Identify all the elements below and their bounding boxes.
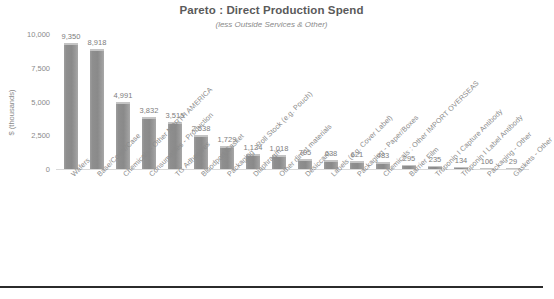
chart-title: Pareto : Direct Production Spend [0, 4, 543, 16]
y-tick-label: 7,500 [31, 63, 50, 72]
y-axis-ticks: 10,0007,5005,0002,5000 [12, 34, 50, 169]
y-tick-label: 0 [46, 165, 50, 174]
bottom-divider [0, 286, 543, 288]
y-tick-label: 10,000 [27, 30, 50, 39]
chart-subtitle: (less Outside Services & Other) [0, 20, 543, 29]
y-tick-label: 2,500 [31, 131, 50, 140]
bar[interactable] [90, 49, 104, 169]
bar-group: 9,350 [58, 34, 84, 169]
y-tick-label: 5,000 [31, 97, 50, 106]
bar[interactable] [64, 43, 78, 169]
x-axis-category-labels: WafersBase/Cover/CaseChemicals - Other N… [56, 170, 529, 280]
bar-group: 8,918 [84, 34, 110, 169]
